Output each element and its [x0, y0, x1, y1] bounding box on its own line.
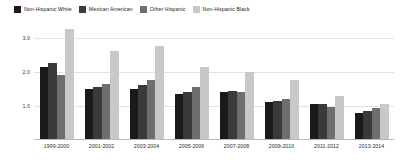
bar[interactable]	[273, 101, 282, 140]
x-axis-tick-label: 2007-2008	[214, 143, 259, 149]
legend-swatch-icon	[193, 6, 200, 13]
y-axis-tick-label: 3.0	[23, 35, 31, 41]
bar[interactable]	[40, 67, 49, 140]
bar[interactable]	[102, 84, 111, 140]
bar[interactable]	[93, 87, 102, 140]
bar-group	[169, 24, 214, 140]
bars-layer	[34, 24, 394, 140]
bar[interactable]	[175, 94, 184, 140]
legend-swatch-icon	[140, 6, 147, 13]
bar[interactable]	[147, 80, 156, 140]
bar[interactable]	[335, 96, 344, 140]
bar-group	[349, 24, 394, 140]
bar[interactable]	[48, 63, 57, 140]
bar-group	[259, 24, 304, 140]
bar[interactable]	[237, 92, 246, 140]
bar-chart: Non-Hispanic WhiteMexican AmericanOther …	[0, 0, 404, 167]
x-axis-tick-label: 2011-2012	[304, 143, 349, 149]
x-axis-tick-label: 2001-2002	[79, 143, 124, 149]
legend-item-label: Non-Hispanic Black	[203, 6, 250, 13]
bar[interactable]	[282, 99, 291, 140]
bar[interactable]	[363, 111, 372, 140]
bar[interactable]	[228, 91, 237, 140]
bar[interactable]	[380, 104, 389, 140]
bar[interactable]	[318, 104, 327, 140]
bar-group	[304, 24, 349, 140]
bar[interactable]	[327, 107, 336, 140]
bar[interactable]	[85, 89, 94, 140]
bar[interactable]	[138, 85, 147, 140]
bar[interactable]	[200, 67, 209, 140]
bar[interactable]	[245, 72, 254, 140]
bar[interactable]	[183, 92, 192, 140]
legend-item[interactable]: Non-Hispanic Black	[193, 6, 250, 13]
bar[interactable]	[192, 87, 201, 140]
bar-group	[79, 24, 124, 140]
bar-group	[214, 24, 259, 140]
bar[interactable]	[310, 104, 319, 140]
chart-legend: Non-Hispanic WhiteMexican AmericanOther …	[14, 3, 250, 15]
legend-item-label: Mexican American	[89, 6, 133, 13]
x-axis-tick-label: 2009-2010	[259, 143, 304, 149]
x-axis-tick-label: 2013-2014	[349, 143, 394, 149]
legend-item[interactable]: Other Hispanic	[140, 6, 186, 13]
legend-item[interactable]: Mexican American	[79, 6, 133, 13]
bar[interactable]	[372, 108, 381, 140]
legend-item-label: Other Hispanic	[150, 6, 186, 13]
x-axis-baseline	[34, 139, 394, 140]
bar[interactable]	[130, 89, 139, 140]
y-axis-tick-label: 1.0	[23, 103, 31, 109]
bar[interactable]	[65, 29, 74, 140]
bar-group	[34, 24, 79, 140]
bar[interactable]	[110, 51, 119, 140]
legend-swatch-icon	[14, 6, 21, 13]
legend-item[interactable]: Non-Hispanic White	[14, 6, 72, 13]
bar[interactable]	[355, 113, 364, 140]
bar[interactable]	[155, 46, 164, 140]
x-axis-tick-label: 2005-2006	[169, 143, 214, 149]
legend-item-label: Non-Hispanic White	[24, 6, 72, 13]
bar[interactable]	[57, 75, 66, 140]
x-axis-labels: 1999-20002001-20022003-20042005-20062007…	[34, 143, 394, 149]
bar[interactable]	[290, 80, 299, 140]
y-axis-tick-label: 2.0	[23, 69, 31, 75]
plot-area: 1.02.03.0	[34, 24, 394, 140]
legend-swatch-icon	[79, 6, 86, 13]
bar-group	[124, 24, 169, 140]
x-axis-tick-label: 2003-2004	[124, 143, 169, 149]
bar[interactable]	[265, 102, 274, 140]
bar[interactable]	[220, 92, 229, 140]
x-axis-tick-label: 1999-2000	[34, 143, 79, 149]
